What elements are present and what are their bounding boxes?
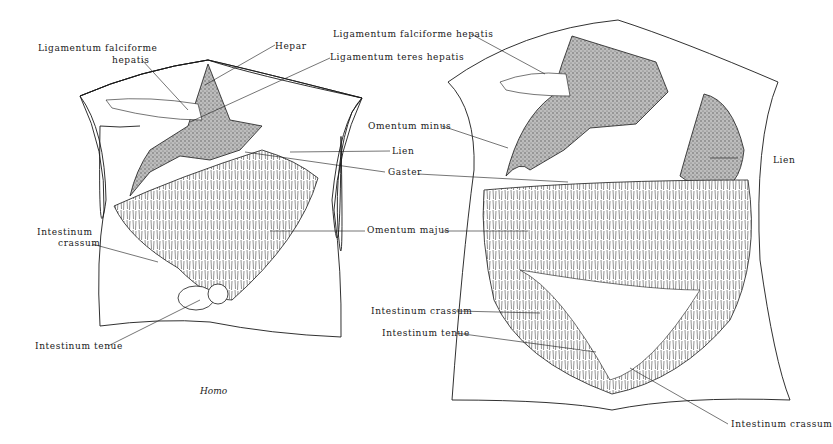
label-ligamentum-falciforme-right: Ligamentum falciforme hepatis [333,29,493,40]
label-ligamentum-teres-hepatis: Ligamentum teres hepatis [330,52,464,63]
label-intestinum-tenue-left: Intestinum tenue [35,341,123,352]
label-intestinum-crassum-left-2: crassum [58,238,100,249]
label-gaster: Gaster [388,167,422,178]
anatomy-drawing [0,0,833,444]
label-hepar: Hepar [275,41,307,52]
label-hepatis-left: hepatis [112,55,150,66]
label-intestinum-crassum-right-upper: Intestinum crassum [371,306,472,317]
label-omentum-majus: Omentum majus [367,225,450,236]
label-intestinum-crassum-right-lower: Intestinum crassum [731,419,832,430]
label-intestinum-crassum-left-1: Intestinum [37,227,93,238]
label-ligamentum-falciforme-left: Ligamentum falciforme [38,43,157,54]
label-lien-right: Lien [773,155,795,166]
label-lien-left: Lien [392,146,414,157]
label-intestinum-tenue-right: Intestinum tenue [382,328,470,339]
label-omentum-minus: Omentum minus [368,121,451,132]
figure-caption: Homo [200,386,227,396]
